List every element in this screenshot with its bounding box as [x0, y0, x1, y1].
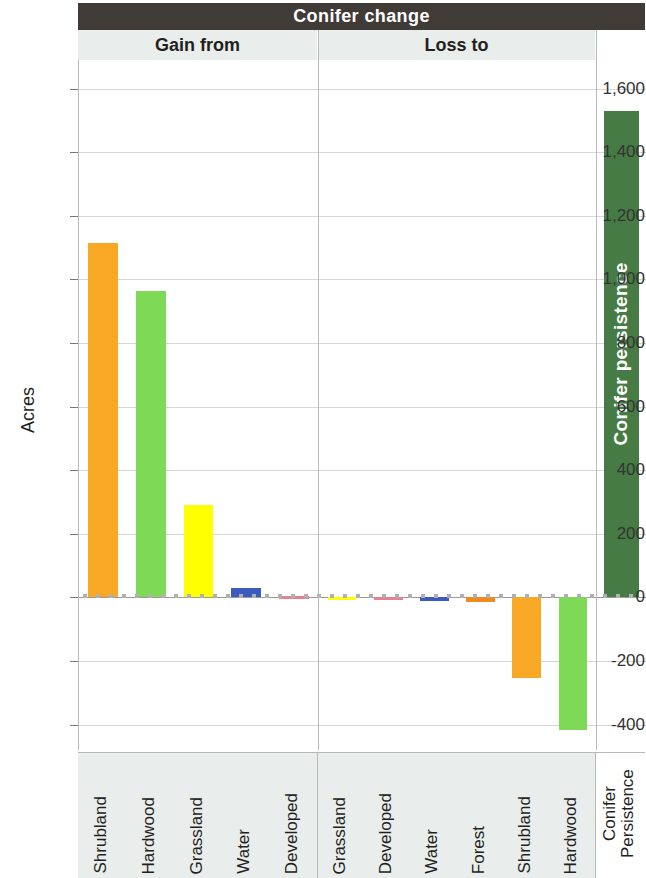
y-axis-tick-label: -400: [587, 715, 645, 735]
y-axis-tick-label: -200: [587, 651, 645, 671]
y-axis-tick-mark: [70, 470, 78, 471]
y-axis-tick-mark: [70, 89, 78, 90]
bar-water: [231, 588, 261, 597]
gridline: [79, 216, 646, 217]
section-header-loss: Loss to: [318, 30, 595, 60]
category-divider-gain-loss: [317, 753, 318, 878]
category-label-shrubland: Shrubland: [92, 796, 110, 874]
y-axis-tick-label: 400: [587, 460, 645, 480]
gridline: [79, 152, 646, 153]
baseline-tick-marker: [265, 594, 269, 598]
y-axis-tick-label: 1,600: [587, 79, 645, 99]
section-header-gain-label: Gain from: [155, 35, 240, 56]
bar-grassland: [184, 505, 214, 597]
baseline-tick-marker: [174, 594, 178, 598]
plot-area: Conifer persistence: [78, 60, 646, 750]
baseline-tick-marker: [278, 594, 282, 598]
category-label-shrubland: Shrubland: [516, 796, 534, 874]
y-axis-tick-label: 0: [587, 587, 645, 607]
y-axis-tick-mark: [70, 725, 78, 726]
y-axis-tick-label: 600: [587, 397, 645, 417]
y-axis-tick-mark: [70, 343, 78, 344]
baseline-tick-marker: [525, 594, 529, 598]
baseline-tick-marker: [200, 594, 204, 598]
baseline-tick-marker: [330, 594, 334, 598]
panel-divider-gain-loss: [318, 30, 319, 750]
bar-forest: [466, 597, 495, 601]
baseline-tick-marker: [291, 594, 295, 598]
category-label-developed: Developed: [377, 793, 395, 874]
baseline-tick-marker: [343, 594, 347, 598]
chart-title-band: Conifer change: [78, 3, 645, 30]
category-label-grassland: Grassland: [331, 797, 349, 874]
bar-shrubland: [512, 597, 541, 677]
baseline-tick-marker: [226, 594, 230, 598]
category-label-conifer-persistence: Conifer Persistence: [601, 756, 641, 872]
baseline-tick-marker: [564, 594, 568, 598]
panel-divider-loss-persistence: [596, 30, 597, 750]
baseline-tick-marker: [135, 594, 139, 598]
baseline-tick-marker: [356, 594, 360, 598]
baseline-tick-marker: [96, 594, 100, 598]
baseline-tick-marker: [512, 594, 516, 598]
baseline-tick-marker: [369, 594, 373, 598]
category-label-hardwood: Hardwood: [562, 797, 580, 875]
baseline-tick-marker: [161, 594, 165, 598]
y-axis-tick-mark: [70, 534, 78, 535]
y-axis-tick-mark: [70, 661, 78, 662]
baseline-tick-marker: [239, 594, 243, 598]
section-header-row: Gain from Loss to: [78, 30, 645, 60]
y-axis-tick-mark: [70, 597, 78, 598]
baseline-tick-marker: [434, 594, 438, 598]
baseline-tick-marker: [408, 594, 412, 598]
y-axis-tick-mark: [70, 279, 78, 280]
baseline-tick-marker: [252, 594, 256, 598]
baseline-tick-marker: [122, 594, 126, 598]
baseline-tick-marker: [304, 594, 308, 598]
baseline-tick-marker: [148, 594, 152, 598]
baseline-tick-marker: [538, 594, 542, 598]
category-label-strip: ShrublandHardwoodGrasslandWaterDeveloped…: [78, 752, 645, 878]
y-axis-title: Acres: [18, 387, 39, 433]
category-divider-loss-persistence: [595, 753, 596, 878]
y-axis-tick-mark: [70, 152, 78, 153]
baseline-tick-marker: [577, 594, 581, 598]
gridline: [79, 279, 646, 280]
baseline-tick-marker: [499, 594, 503, 598]
baseline-tick-marker: [83, 594, 87, 598]
baseline-tick-marker: [382, 594, 386, 598]
category-label-forest: Forest: [470, 826, 488, 874]
category-label-developed: Developed: [283, 793, 301, 874]
y-axis-tick-label: 1,200: [587, 206, 645, 226]
chart-title: Conifer change: [293, 6, 430, 27]
conifer-persistence-bar-label: Conifer persistence: [610, 262, 632, 445]
y-axis-tick-mark: [70, 216, 78, 217]
y-axis-tick-label: 1,400: [587, 142, 645, 162]
baseline-tick-marker: [109, 594, 113, 598]
y-axis-tick-label: 200: [587, 524, 645, 544]
baseline-tick-marker: [187, 594, 191, 598]
y-axis-tick-label: 800: [587, 333, 645, 353]
baseline-tick-marker: [395, 594, 399, 598]
section-header-loss-label: Loss to: [424, 35, 488, 56]
baseline-tick-marker: [213, 594, 217, 598]
baseline-tick-marker: [421, 594, 425, 598]
baseline-tick-marker: [486, 594, 490, 598]
baseline-tick-marker: [447, 594, 451, 598]
bar-hardwood: [559, 597, 588, 730]
baseline-tick-marker: [551, 594, 555, 598]
y-axis-tick-label: 1,000: [587, 269, 645, 289]
baseline-tick-marker: [473, 594, 477, 598]
section-header-gain: Gain from: [78, 30, 317, 60]
gridline: [79, 89, 646, 90]
category-label-water: Water: [235, 829, 253, 874]
bar-hardwood: [136, 291, 166, 597]
bar-shrubland: [88, 243, 118, 597]
baseline-tick-marker: [460, 594, 464, 598]
category-label-grassland: Grassland: [188, 797, 206, 874]
category-label-water: Water: [423, 829, 441, 874]
section-header-persistence: [596, 30, 645, 60]
category-label-hardwood: Hardwood: [140, 797, 158, 875]
y-axis-tick-mark: [70, 407, 78, 408]
